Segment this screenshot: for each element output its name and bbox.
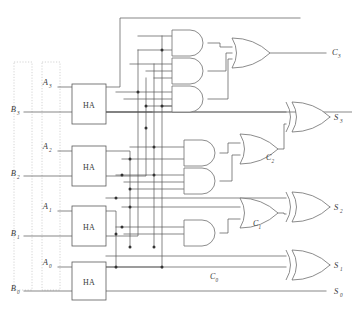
input-label-b1: B 1 (11, 228, 20, 240)
junction-dot (129, 206, 132, 209)
half-adder-label: HA (83, 163, 95, 172)
input-label-b0: B 0 (11, 283, 20, 295)
junction-dot (115, 233, 118, 236)
output-label-base: S (334, 286, 339, 296)
input-label-b3: B 3 (11, 104, 20, 116)
input-label-sub: 0 (17, 289, 20, 295)
half-adder-block[interactable]: HA (72, 146, 106, 186)
junction-dot (145, 105, 148, 108)
junction-dot (153, 246, 156, 249)
input-label-base: B (11, 283, 16, 293)
output-label-base: S (334, 202, 339, 212)
input-label-base: B (11, 104, 16, 114)
half-adder-label: HA (83, 101, 95, 110)
output-label-sub: 3 (340, 118, 343, 124)
wire-and-c-to-or (208, 59, 232, 99)
input-label-base: B (11, 168, 16, 178)
half-adder-block[interactable]: HA (72, 84, 106, 124)
internal-label-sub: 0 (216, 277, 219, 283)
junction-dot (161, 266, 164, 269)
input-label-base: A (42, 257, 49, 267)
junction-dot (129, 158, 132, 161)
wire-c2b-to-or (220, 155, 240, 181)
wire-and-c1-to-or (220, 219, 240, 233)
internal-label-sub: 1 (259, 224, 262, 230)
junction-dot (137, 91, 140, 94)
and-gate[interactable] (172, 86, 203, 112)
half-adder-block[interactable]: HA (72, 262, 106, 300)
output-label-c3: C 3 (332, 47, 341, 59)
internal-label-c2: C 2 (266, 153, 275, 164)
junction-dot (161, 105, 164, 108)
output-label-s0: S 0 (334, 286, 343, 298)
and-gate[interactable] (184, 168, 215, 194)
junction-dot (121, 174, 124, 177)
and-gates (172, 30, 215, 246)
wire-ha2-carry-v (106, 151, 130, 247)
input-label-base: A (42, 201, 49, 211)
input-labels: A 3 B 3 A 2 B 2 A 1 B 1 A 0 B 0 (11, 77, 52, 295)
junction-dot (129, 188, 132, 191)
wire-or-c2-to-xor-s3 (278, 124, 286, 149)
output-label-sub: 1 (340, 266, 343, 272)
wire-ha1-sum-v (106, 92, 138, 236)
or-gate[interactable] (232, 38, 270, 68)
and-gate[interactable] (172, 30, 203, 56)
wire-and-a-to-or (208, 43, 232, 47)
output-label-s2: S 2 (334, 202, 343, 214)
or-gates (232, 38, 278, 228)
output-label-s1: S 1 (334, 260, 343, 272)
and-gate[interactable] (184, 220, 215, 246)
junction-dot (121, 226, 124, 229)
internal-label-c0: C 0 (210, 272, 219, 283)
half-adder-label: HA (83, 223, 95, 232)
and-gate[interactable] (172, 58, 203, 84)
xor-gate[interactable] (286, 250, 330, 280)
output-label-base: S (334, 260, 339, 270)
junction-dot (161, 49, 164, 52)
output-label-s3: S 3 (334, 112, 343, 124)
output-label-sub: 3 (338, 53, 341, 59)
input-label-sub: 3 (49, 83, 52, 89)
xor-gate[interactable] (286, 192, 330, 222)
and-gate[interactable] (184, 140, 215, 166)
wire-ha2-sum-v (106, 128, 146, 176)
input-label-a2: A 2 (42, 141, 52, 153)
wire-ha3-carry-top (106, 18, 300, 87)
junction-dot (153, 146, 156, 149)
output-labels: C 3 S 3 S 2 S 1 S 0 (332, 47, 343, 298)
output-label-base: S (334, 112, 339, 122)
junction-dot (115, 266, 118, 269)
junction-dot (129, 246, 132, 249)
input-label-sub: 1 (49, 207, 52, 213)
internal-label-sub: 2 (272, 158, 275, 164)
input-label-base: A (42, 141, 49, 151)
half-adder-blocks: HA HA HA HA (72, 84, 106, 300)
input-label-base: A (42, 77, 49, 87)
input-label-sub: 1 (17, 234, 20, 240)
input-label-a1: A 1 (42, 201, 52, 213)
junction-dot (153, 174, 156, 177)
half-adder-block[interactable]: HA (72, 206, 106, 246)
half-adder-label: HA (83, 278, 95, 287)
junction-dot (145, 127, 148, 130)
input-label-base: B (11, 228, 16, 238)
input-label-b2: B 2 (11, 168, 20, 180)
input-label-sub: 2 (49, 147, 52, 153)
output-label-sub: 2 (340, 208, 343, 214)
wire-and-b-to-or (208, 53, 232, 71)
input-label-a0: A 0 (42, 257, 52, 269)
schematic-svg: HA HA HA HA (0, 0, 352, 314)
wire-c2a-to-or (220, 143, 240, 153)
input-label-sub: 3 (17, 110, 20, 116)
junction-dots (115, 49, 164, 269)
junction-dot (115, 197, 118, 200)
circuit-diagram-canvas: HA HA HA HA (0, 0, 352, 314)
input-label-a3: A 3 (42, 77, 52, 89)
xor-gate[interactable] (286, 102, 330, 132)
xor-gates (286, 102, 330, 280)
input-label-sub: 0 (49, 263, 52, 269)
input-label-sub: 2 (17, 174, 20, 180)
wire-ha1-carry-v (106, 211, 116, 268)
output-label-sub: 0 (340, 292, 343, 298)
